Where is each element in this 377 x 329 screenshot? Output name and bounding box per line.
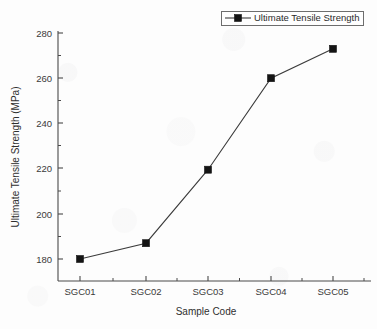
y-axis-ticks	[58, 33, 63, 259]
x-tick-label: SGC04	[255, 286, 286, 297]
y-tick-label: 180	[36, 254, 52, 265]
y-axis-title: Ultimate Tensile Strength (MPa)	[10, 87, 21, 228]
chart-legend[interactable]: Ultimate Tensile Strength	[221, 11, 364, 26]
x-axis-ticks	[80, 276, 364, 281]
data-point-marker	[205, 166, 212, 173]
legend-label: Ultimate Tensile Strength	[254, 13, 359, 23]
y-tick-label: 200	[36, 209, 52, 220]
y-tick-label: 240	[36, 118, 52, 129]
x-axis-tick-labels: SGC01 SGC02 SGC03 SGC04 SGC05	[64, 286, 348, 297]
x-axis-title: Sample Code	[176, 306, 237, 317]
line-chart-plot: 280 260 240 220 200 180 SGC01 SGC02 SGC0…	[0, 0, 377, 329]
chart-screenshot: 280 260 240 220 200 180 SGC01 SGC02 SGC0…	[0, 0, 377, 329]
data-point-marker	[330, 45, 337, 52]
y-axis-tick-labels: 280 260 240 220 200 180	[36, 28, 52, 265]
data-point-marker	[143, 240, 150, 247]
x-tick-label: SGC05	[317, 286, 348, 297]
x-tick-label: SGC01	[64, 286, 95, 297]
x-tick-label: SGC03	[192, 286, 223, 297]
x-tick-label: SGC02	[130, 286, 161, 297]
data-point-marker	[268, 75, 275, 82]
legend-marker-icon	[225, 13, 251, 23]
series-line-ultimate-tensile-strength	[80, 49, 333, 259]
y-tick-label: 260	[36, 73, 52, 84]
y-tick-label: 220	[36, 163, 52, 174]
data-point-marker	[77, 256, 84, 263]
y-tick-label: 280	[36, 28, 52, 39]
series-markers	[77, 45, 337, 262]
